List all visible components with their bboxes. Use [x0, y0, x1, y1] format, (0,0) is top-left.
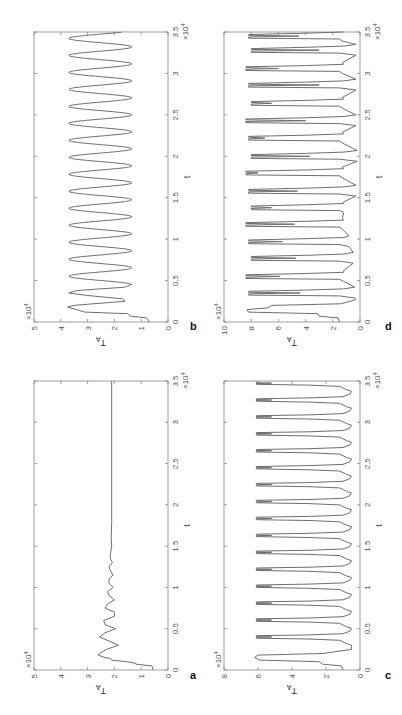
panel-c: 00.511.522.533.502468×104×104tTAc — [190, 349, 402, 715]
x-tick-label: 1 — [363, 236, 372, 241]
y-tick-label: 1 — [137, 673, 146, 678]
x-tick-label: 3 — [171, 420, 180, 425]
y-tick-label: 4 — [57, 325, 66, 330]
x-tick-label: 2.5 — [171, 109, 180, 121]
x-exponent-label: ×104 — [372, 371, 382, 389]
plot-frame — [34, 381, 168, 670]
panel-letter-d: d — [385, 320, 392, 332]
y-tick-label: 8 — [247, 325, 256, 330]
x-tick-label: 0.5 — [171, 274, 180, 286]
x-exponent-label: ×104 — [180, 22, 190, 40]
x-axis-label: t — [374, 175, 384, 178]
x-tick-label: 3 — [363, 71, 372, 76]
x-tick-label: 2.5 — [171, 457, 180, 469]
plot-area-b: 00.511.522.533.5012345×104×104tTAb — [23, 22, 197, 348]
plot-frame — [224, 381, 360, 670]
x-tick-label: 0 — [363, 667, 372, 672]
y-tick-label: 6 — [274, 325, 283, 330]
data-line-a — [98, 381, 153, 670]
x-tick-label: 0.5 — [363, 623, 372, 635]
y-tick-label: 10 — [220, 325, 229, 334]
data-line-d — [246, 32, 357, 322]
x-tick-label: 1 — [171, 585, 180, 590]
y-exponent-label: ×104 — [213, 650, 223, 668]
x-exponent-label: ×104 — [180, 371, 190, 389]
y-tick-label: 5 — [30, 325, 39, 330]
plot-area-a: 00.511.522.533.5012345×104×104tTAa — [23, 371, 197, 696]
x-tick-label: 3 — [171, 71, 180, 76]
x-tick-label: 1 — [171, 236, 180, 241]
x-tick-label: 2 — [363, 502, 372, 507]
y-tick-label: 0 — [164, 325, 173, 330]
y-tick-label: 4 — [302, 325, 311, 330]
y-tick-label: 1 — [137, 325, 146, 330]
x-tick-label: 2 — [171, 502, 180, 507]
x-tick-label: 1.5 — [171, 192, 180, 204]
plot-area-c: 00.511.522.533.502468×104×104tTAc — [213, 371, 391, 696]
y-axis-label: TA — [96, 336, 107, 348]
plot-area-d: 00.511.522.533.50246810×104×104tTAd — [213, 22, 392, 348]
y-tick-label: 2 — [110, 673, 119, 678]
y-tick-label: 0 — [356, 325, 365, 330]
data-line-c — [255, 382, 352, 670]
panel-letter-c: c — [385, 669, 391, 681]
chart-d: 00.511.522.533.50246810×104×104tTAd — [190, 0, 402, 360]
x-tick-label: 3.5 — [171, 375, 180, 387]
x-tick-label: 3.5 — [363, 375, 372, 387]
y-exponent-label: ×104 — [23, 650, 33, 668]
y-tick-label: 2 — [322, 673, 331, 678]
y-tick-label: 2 — [329, 325, 338, 330]
panel-b: 00.511.522.533.5012345×104×104tTAb — [0, 0, 200, 360]
y-tick-label: 0 — [356, 673, 365, 678]
y-axis-label: TA — [287, 336, 298, 348]
x-tick-label: 1 — [363, 585, 372, 590]
y-exponent-label: ×104 — [23, 302, 33, 320]
y-tick-label: 5 — [30, 673, 39, 678]
x-tick-label: 1.5 — [363, 192, 372, 204]
panel-a: 00.511.522.533.5012345×104×104tTAa — [0, 349, 200, 715]
x-tick-label: 0.5 — [171, 623, 180, 635]
y-tick-label: 6 — [254, 673, 263, 678]
chart-c: 00.511.522.533.502468×104×104tTAc — [190, 349, 402, 715]
x-tick-label: 1.5 — [171, 540, 180, 552]
y-tick-label: 0 — [164, 673, 173, 678]
y-axis-label: TA — [96, 684, 107, 696]
y-tick-label: 3 — [84, 673, 93, 678]
x-tick-label: 0 — [363, 319, 372, 324]
x-tick-label: 0 — [171, 667, 180, 672]
x-exponent-label: ×104 — [372, 22, 382, 40]
x-tick-label: 2.5 — [363, 457, 372, 469]
x-tick-label: 3.5 — [363, 26, 372, 38]
x-tick-label: 0 — [171, 319, 180, 324]
y-tick-label: 8 — [220, 673, 229, 678]
y-tick-label: 2 — [110, 325, 119, 330]
panel-d: 00.511.522.533.50246810×104×104tTAd — [190, 0, 402, 360]
x-axis-label: t — [374, 524, 384, 527]
chart-b: 00.511.522.533.5012345×104×104tTAb — [0, 0, 200, 360]
x-tick-label: 3 — [363, 420, 372, 425]
x-tick-label: 2 — [171, 154, 180, 159]
y-tick-label: 4 — [288, 673, 297, 678]
x-tick-label: 0.5 — [363, 274, 372, 286]
x-tick-label: 2 — [363, 154, 372, 159]
x-tick-label: 3.5 — [171, 26, 180, 38]
y-exponent-label: ×104 — [213, 302, 223, 320]
chart-a: 00.511.522.533.5012345×104×104tTAa — [0, 349, 200, 715]
x-tick-label: 2.5 — [363, 109, 372, 121]
x-tick-label: 1.5 — [363, 540, 372, 552]
y-tick-label: 3 — [84, 325, 93, 330]
data-line-b — [68, 32, 150, 322]
y-tick-label: 4 — [57, 673, 66, 678]
plot-frame — [34, 32, 168, 322]
y-axis-label: TA — [287, 684, 298, 696]
